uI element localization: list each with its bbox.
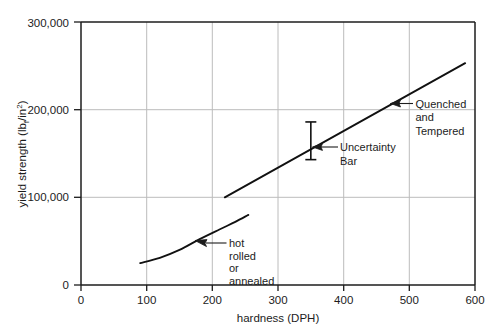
annotation-hot-rolled-line-2: rolled: [229, 250, 256, 262]
annotation-quenched-line-3: Tempered: [416, 125, 465, 137]
chart-figure: 0 100,000 200,000 300,000 0 100 200 300 …: [0, 0, 496, 327]
annotation-quenched-line-1: Quenched: [416, 98, 467, 110]
annotation-quenched-line-2: and: [416, 111, 434, 123]
y-axis-title-mid: /in: [16, 109, 28, 121]
annotation-hot-rolled-line-1: hot: [229, 237, 244, 249]
y-tick-label-0: 0: [63, 279, 69, 291]
annotation-uncertainty-line-1: Uncertainty: [340, 141, 396, 153]
annotation-hot-rolled-line-4: annealed: [229, 275, 274, 287]
x-tick-label-600: 600: [465, 294, 484, 306]
x-tick-label-0: 0: [78, 294, 84, 306]
y-axis-title-main: yield strength (lb: [16, 123, 28, 207]
x-tick-label-400: 400: [334, 294, 353, 306]
annotation-uncertainty-line-2: Bar: [340, 155, 357, 167]
annotation-hot-rolled-line-3: or: [229, 262, 239, 274]
yield-strength-vs-hardness-chart: 0 100,000 200,000 300,000 0 100 200 300 …: [0, 0, 496, 327]
x-tick-label-300: 300: [268, 294, 287, 306]
x-tick-label-100: 100: [137, 294, 156, 306]
x-tick-label-200: 200: [203, 294, 222, 306]
x-axis-title: hardness (DPH): [237, 312, 320, 324]
y-tick-label-200000: 200,000: [27, 104, 69, 116]
y-axis-title-close: ): [16, 100, 28, 104]
x-tick-label-500: 500: [400, 294, 419, 306]
y-tick-label-100000: 100,000: [27, 191, 69, 203]
y-tick-label-300000: 300,000: [27, 17, 69, 29]
